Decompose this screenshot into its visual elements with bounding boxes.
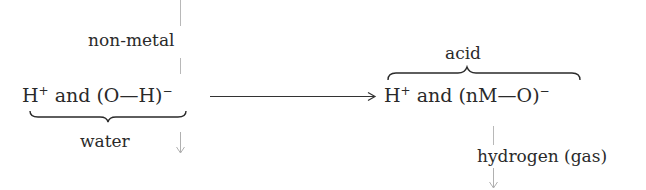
oxyanion-text: and (nM—O) xyxy=(411,84,540,106)
right-down-arrow-icon xyxy=(490,168,498,188)
plus-charge: + xyxy=(39,84,49,98)
non-metal-label: non-metal xyxy=(88,30,174,50)
minus-charge: − xyxy=(162,84,172,98)
water-underbrace xyxy=(30,111,186,122)
water-label: water xyxy=(80,131,130,151)
hydrogen-symbol: H xyxy=(384,84,401,106)
acid-overbrace xyxy=(388,67,580,80)
acid-formula: H+ and (nM—O)− xyxy=(384,84,550,106)
plus-charge: + xyxy=(401,84,411,98)
minus-charge: − xyxy=(540,84,550,98)
water-formula: H+ and (O—H)− xyxy=(22,84,172,106)
reaction-arrow-icon xyxy=(210,93,375,101)
left-down-arrow-icon xyxy=(177,132,185,153)
hydrogen-gas-label: hydrogen (gas) xyxy=(477,146,607,166)
hydroxide-text: and (O—H) xyxy=(49,84,163,106)
acid-label: acid xyxy=(445,43,481,63)
hydrogen-symbol: H xyxy=(22,84,39,106)
